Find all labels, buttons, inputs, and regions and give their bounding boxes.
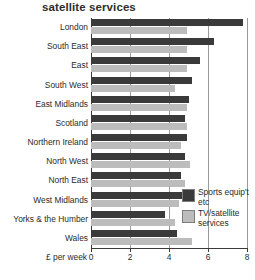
bar [91,104,187,111]
bar [91,211,165,218]
bar [91,123,187,130]
bar-group [91,114,247,133]
legend-swatch [182,210,195,223]
bar [91,238,192,245]
bar-group [91,95,247,114]
bar [91,161,190,168]
bar-group [91,37,247,56]
bar [91,19,243,26]
bar [91,27,187,34]
x-axis-title: £ per week [0,252,87,262]
category-axis-labels: LondonSouth EastEastSouth WestEast Midla… [0,18,88,248]
bar [91,172,181,179]
bar [91,200,179,207]
bar-group [91,229,247,248]
bar [91,115,185,122]
category-label: Yorks & the Humber [2,214,88,224]
category-label: South East [2,41,88,51]
bar [91,57,200,64]
category-label: North West [2,156,88,166]
bar [91,219,175,226]
bar [91,153,185,160]
x-tick-label: 2 [122,252,138,262]
category-label: West Midlands [2,195,88,205]
legend-swatch [182,189,195,202]
bar [91,65,187,72]
bar [91,46,187,53]
bar [91,142,181,149]
category-label: East [2,60,88,70]
category-label: East Midlands [2,99,88,109]
x-tick-label: 4 [161,252,177,262]
category-label: Scotland [2,118,88,128]
chart-title: satellite services [42,1,136,13]
chart-legend: Sports equip't etcTV/satellite services [182,188,252,230]
category-label: North East [2,175,88,185]
legend-item: TV/satellite services [182,209,252,228]
bar [91,180,185,187]
legend-label: Sports equip't etc [198,188,252,207]
bar-group [91,18,247,37]
bar-chart: satellite services LondonSouth EastEastS… [0,0,255,280]
bar [91,85,175,92]
x-axis: 02468 [91,249,251,263]
bar-group [91,76,247,95]
bar-group [91,152,247,171]
legend-item: Sports equip't etc [182,188,252,207]
category-label: Northern Ireland [2,137,88,147]
x-tick-label: 6 [200,252,216,262]
legend-label: TV/satellite services [198,209,252,228]
bar-group [91,56,247,75]
bar [91,192,183,199]
category-label: London [2,22,88,32]
x-tick-label: 8 [239,252,255,262]
bar-group [91,133,247,152]
bar [91,96,189,103]
bar [91,230,177,237]
category-label: South West [2,80,88,90]
bar [91,38,214,45]
bar [91,77,192,84]
category-label: Wales [2,233,88,243]
bar [91,134,187,141]
